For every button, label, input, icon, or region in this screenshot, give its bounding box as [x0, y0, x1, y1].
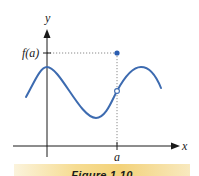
- caption-band: Figure 1.10: [14, 164, 190, 176]
- filled-point: [114, 50, 119, 55]
- y-axis-arrow-icon: [44, 29, 51, 38]
- y-axis-label: y: [44, 11, 51, 25]
- a-label: a: [114, 150, 120, 164]
- open-point: [115, 89, 120, 94]
- figure-caption: Figure 1.10: [14, 169, 190, 176]
- x-axis-label: x: [181, 139, 188, 153]
- figure: y x f(a) a Figure 1.10: [0, 0, 199, 176]
- f-a-label: f(a): [22, 46, 39, 60]
- function-curve: [26, 67, 161, 118]
- graph-svg: y x f(a) a: [0, 0, 199, 176]
- x-axis-arrow-icon: [171, 143, 180, 150]
